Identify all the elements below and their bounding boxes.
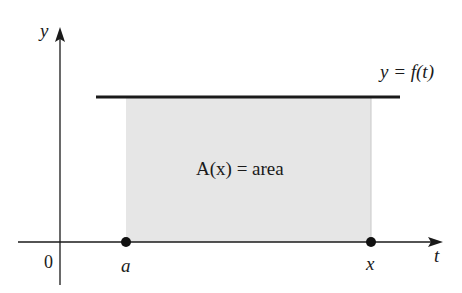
point-a: [121, 237, 131, 247]
region-label: A(x) = area: [196, 158, 284, 180]
y-axis-label: y: [38, 20, 49, 41]
point-a-label: a: [121, 255, 131, 276]
origin-label: 0: [44, 252, 53, 272]
area-function-diagram: y t 0 a x y = f(t) A(x) = area: [0, 0, 462, 293]
curve-label: y = f(t): [378, 61, 434, 83]
point-x: [366, 237, 376, 247]
point-x-label: x: [365, 253, 375, 274]
t-axis-label: t: [434, 245, 440, 266]
